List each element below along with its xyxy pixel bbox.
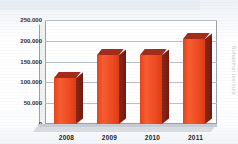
y-axis-tick-label: 150.000 <box>6 59 42 65</box>
y-axis-tick-label: 100.000 <box>6 79 42 85</box>
page-background-band <box>0 0 200 10</box>
bar-chart: 250.000200.000150.000100.00050.0000 2008… <box>7 13 220 127</box>
y-axis-tick-label: 250.000 <box>6 17 42 23</box>
y-axis-tick-label: 200.000 <box>6 38 42 44</box>
x-axis-tick-label: 2010 <box>133 134 173 141</box>
bar-front-face <box>97 55 119 124</box>
bar-side-face <box>205 33 212 124</box>
x-axis-tick-label: 2008 <box>47 134 87 141</box>
bar-2011 <box>183 39 212 124</box>
bar-2010 <box>140 55 169 124</box>
bar-side-face <box>162 50 169 124</box>
gridline <box>45 20 217 21</box>
bar-front-face <box>54 78 76 124</box>
bar-front-face <box>140 55 162 124</box>
y-axis-tick-label: 50.000 <box>6 100 42 106</box>
bar-side-face <box>119 50 126 124</box>
bar-side-face <box>76 73 83 124</box>
chart-floor-front <box>39 124 217 127</box>
bar-2008 <box>54 78 83 124</box>
bar-front-face <box>183 39 205 124</box>
watermark-credit: Rohanmat Institute <box>231 46 237 95</box>
x-axis-tick-label: 2009 <box>90 134 130 141</box>
bar-2009 <box>97 55 126 124</box>
x-axis-tick-label: 2011 <box>176 134 216 141</box>
chart-screenshot: 250.000200.000150.000100.00050.0000 2008… <box>0 0 238 144</box>
